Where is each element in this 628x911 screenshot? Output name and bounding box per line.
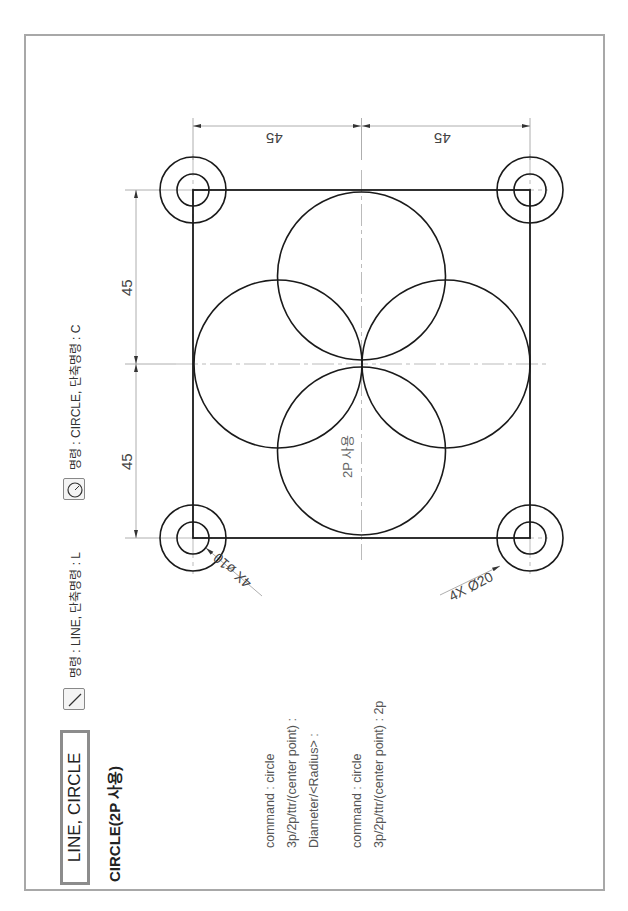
dimension-label: 45	[266, 130, 283, 147]
method-note: 2P 사용	[337, 435, 356, 478]
dimension-label: 45	[118, 279, 135, 296]
cad-drawing	[0, 0, 628, 911]
four-circles	[194, 192, 530, 535]
dimension-label: 45	[118, 453, 135, 470]
dimension-label: 45	[434, 130, 451, 147]
